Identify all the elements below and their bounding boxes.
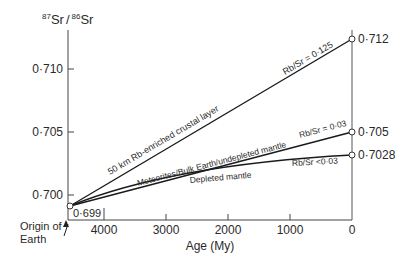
end-label-bulk-earth: 0·705: [358, 125, 389, 139]
endpoint-0705: [349, 129, 355, 135]
y-tick-label: 0·700: [32, 188, 63, 202]
x-tick-label: 4000: [91, 223, 118, 237]
depleted-ratio-label: Rb/Sr <0·03: [292, 156, 339, 168]
origin-annotation: Earth: [20, 233, 46, 245]
y-tick-label: 0·705: [32, 125, 63, 139]
x-tick-label: 1000: [277, 223, 304, 237]
arrowhead-icon: [63, 220, 69, 227]
end-label-depleted: 0·7028: [358, 148, 396, 162]
bulk-earth-ratio-label: Rb/Sr = 0·03: [298, 118, 348, 140]
origin-annotation: Origin of: [20, 220, 63, 232]
strontium-evolution-chart: 0·710 0·705 0·700 87Sr/86Sr 4000 3000 20…: [0, 0, 409, 264]
x-tick-label: 2000: [215, 223, 242, 237]
origin-value-label: 0·699: [73, 207, 101, 219]
endpoint-07028: [349, 152, 355, 158]
endpoint-0712: [349, 36, 355, 42]
crustal-ratio-label: Rb/Sr = 0·125: [281, 39, 335, 76]
x-tick-label: 0: [349, 223, 356, 237]
y-axis-title: 87Sr/86Sr: [42, 12, 94, 27]
x-axis-title: Age (My): [186, 239, 235, 253]
end-label-crustal: 0·712: [358, 32, 389, 46]
y-tick-label: 0·710: [32, 62, 63, 76]
x-tick-label: 3000: [153, 223, 180, 237]
